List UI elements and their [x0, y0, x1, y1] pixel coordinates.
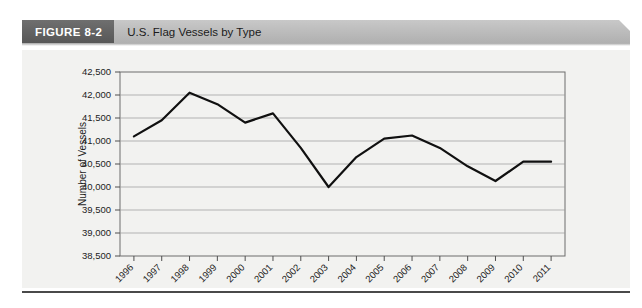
figure-header-shadow — [22, 43, 630, 46]
x-tick-label: 2005 — [363, 262, 386, 285]
y-tick-label: 38,500 — [82, 250, 111, 261]
x-tick-label: 2003 — [307, 262, 330, 285]
x-tick-label: 1996 — [113, 262, 136, 285]
x-tick-label: 2000 — [224, 262, 247, 285]
x-tick-label: 2011 — [530, 262, 552, 284]
chart-area: 42,50042,00041,50041,00040,50040,00039,5… — [22, 50, 630, 288]
x-axis: 1996199719981999200020012002200320042005… — [113, 256, 553, 284]
x-tick-label: 2007 — [419, 262, 442, 285]
y-tick-label: 39,000 — [82, 227, 111, 238]
x-tick-label: 2002 — [279, 262, 302, 285]
x-tick-label: 2001 — [252, 262, 275, 285]
x-tick-label: 2006 — [391, 262, 414, 285]
y-axis-title: Number of Vessels — [77, 122, 88, 206]
x-tick-label: 1998 — [168, 262, 191, 285]
figure-header-bar: FIGURE 8-2 U.S. Flag Vessels by Type — [22, 20, 630, 43]
y-tick-label: 42,500 — [82, 66, 111, 77]
figure-title: U.S. Flag Vessels by Type — [114, 20, 630, 43]
line-chart: 42,50042,00041,50041,00040,50040,00039,5… — [22, 50, 630, 288]
bottom-divider-rule — [22, 291, 630, 293]
x-tick-label: 2010 — [502, 262, 525, 285]
y-tick-label: 41,500 — [82, 112, 111, 123]
x-tick-label: 2009 — [474, 262, 497, 285]
x-tick-label: 1999 — [196, 262, 219, 285]
x-tick-label: 2008 — [446, 262, 469, 285]
x-tick-label: 2004 — [335, 262, 358, 285]
figure-number-label: FIGURE 8-2 — [22, 20, 114, 43]
y-tick-label: 42,000 — [82, 89, 111, 100]
x-tick-label: 1997 — [140, 262, 163, 285]
